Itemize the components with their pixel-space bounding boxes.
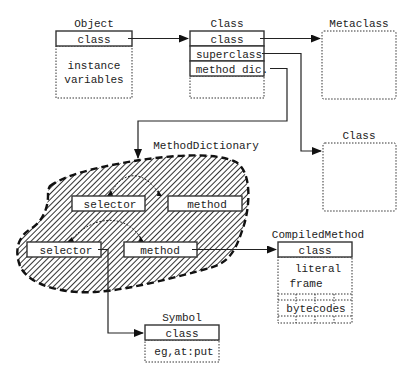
compiledmethod-frame: frame	[289, 278, 322, 290]
entry1-method-label: method	[187, 199, 227, 211]
compiledmethod-class-label: class	[298, 245, 331, 257]
entry1-selector-label: selector	[84, 199, 137, 211]
smalltalk-object-diagram: Object class instance variables Class cl…	[0, 0, 411, 382]
class-superclass-label: superclass	[196, 49, 262, 61]
object-class-label: class	[77, 34, 110, 46]
entry2-method-label: method	[140, 245, 180, 257]
superclass-title: Class	[342, 130, 375, 142]
object-title: Object	[74, 18, 114, 30]
object-body-line2: variables	[64, 74, 123, 86]
object-body-line1: instance	[68, 60, 121, 72]
methoddict-title: MethodDictionary	[153, 140, 259, 152]
metaclass-title: Metaclass	[329, 18, 388, 30]
symbol-body: eg,at:put	[154, 346, 213, 358]
compiledmethod-title: CompiledMethod	[272, 229, 364, 241]
metaclass-box: Metaclass	[322, 18, 396, 99]
symbol-class-label: class	[165, 328, 198, 340]
symbol-title: Symbol	[162, 312, 202, 324]
entry2-selector-label: selector	[40, 245, 93, 257]
compiledmethod-literal: literal	[295, 263, 341, 275]
class-title: Class	[210, 18, 243, 30]
symbol-box: Symbol class eg,at:put	[145, 312, 219, 362]
class-methoddict-label: method dic.	[196, 64, 269, 76]
class-box: Class class superclass method dic.	[190, 18, 268, 98]
class-class-label: class	[210, 34, 243, 46]
object-box: Object class instance variables	[56, 18, 132, 98]
compiledmethod-bytecodes: bytecodes	[286, 303, 345, 315]
compiledmethod-box: CompiledMethod class literal frame bytec…	[272, 229, 364, 323]
superclass-box: Class	[323, 130, 396, 211]
